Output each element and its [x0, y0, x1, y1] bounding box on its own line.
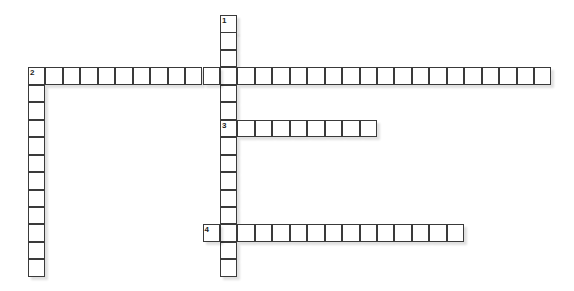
crossword-cell[interactable] — [412, 224, 429, 242]
crossword-cell[interactable] — [220, 32, 237, 50]
crossword-cell[interactable] — [377, 67, 394, 85]
clue-number: 4 — [205, 225, 209, 234]
crossword-cell[interactable] — [220, 224, 237, 242]
crossword-cell[interactable] — [429, 67, 446, 85]
crossword-cell[interactable] — [220, 102, 237, 120]
crossword-cell[interactable] — [290, 120, 307, 138]
crossword-cell[interactable]: 2 — [28, 67, 45, 85]
crossword-cell[interactable] — [272, 120, 289, 138]
crossword-cell[interactable] — [237, 120, 254, 138]
crossword-cell[interactable] — [290, 67, 307, 85]
crossword-cell[interactable] — [534, 67, 551, 85]
clue-number: 1 — [222, 16, 226, 25]
crossword-cell[interactable] — [28, 172, 45, 190]
crossword-cell[interactable] — [220, 207, 237, 225]
crossword-cell[interactable] — [28, 190, 45, 208]
crossword-cell[interactable] — [237, 67, 254, 85]
crossword-cell[interactable] — [255, 224, 272, 242]
crossword-cell[interactable] — [272, 224, 289, 242]
crossword-cell[interactable] — [360, 67, 377, 85]
crossword-cell[interactable] — [28, 155, 45, 173]
crossword-cell[interactable] — [28, 207, 45, 225]
crossword-cell[interactable] — [98, 67, 115, 85]
crossword-grid: 1324 — [0, 0, 574, 291]
clue-number: 3 — [222, 121, 226, 130]
crossword-cell[interactable] — [342, 224, 359, 242]
crossword-cell[interactable] — [28, 242, 45, 260]
crossword-cell[interactable] — [63, 67, 80, 85]
crossword-cell[interactable] — [237, 224, 254, 242]
crossword-cell[interactable] — [255, 67, 272, 85]
crossword-cell[interactable] — [28, 85, 45, 103]
crossword-cell[interactable] — [80, 67, 97, 85]
crossword-cell[interactable] — [447, 67, 464, 85]
crossword-cell[interactable] — [360, 224, 377, 242]
crossword-cell[interactable] — [377, 224, 394, 242]
crossword-cell[interactable] — [28, 137, 45, 155]
crossword-cell[interactable] — [464, 67, 481, 85]
crossword-cell[interactable] — [307, 120, 324, 138]
crossword-cell[interactable] — [168, 67, 185, 85]
crossword-cell[interactable] — [28, 224, 45, 242]
crossword-cell[interactable] — [482, 67, 499, 85]
crossword-cell[interactable] — [394, 67, 411, 85]
crossword-cell[interactable] — [412, 67, 429, 85]
crossword-cell[interactable] — [185, 67, 202, 85]
crossword-cell[interactable] — [28, 120, 45, 138]
crossword-cell[interactable] — [220, 242, 237, 260]
crossword-cell[interactable] — [360, 120, 377, 138]
crossword-cell[interactable] — [342, 67, 359, 85]
crossword-cell[interactable] — [133, 67, 150, 85]
crossword-cell[interactable] — [307, 224, 324, 242]
crossword-cell[interactable] — [394, 224, 411, 242]
crossword-cell[interactable]: 4 — [203, 224, 220, 242]
crossword-cell[interactable] — [325, 67, 342, 85]
crossword-cell[interactable] — [290, 224, 307, 242]
crossword-cell[interactable] — [28, 259, 45, 277]
crossword-cell[interactable] — [115, 67, 132, 85]
crossword-cell[interactable] — [220, 67, 237, 85]
crossword-cell[interactable] — [307, 67, 324, 85]
crossword-cell[interactable] — [28, 102, 45, 120]
crossword-cell[interactable] — [220, 137, 237, 155]
crossword-cell[interactable] — [220, 50, 237, 68]
crossword-cell[interactable] — [325, 120, 342, 138]
crossword-cell[interactable] — [220, 172, 237, 190]
crossword-cell[interactable] — [220, 259, 237, 277]
crossword-cell[interactable] — [325, 224, 342, 242]
crossword-cell[interactable] — [429, 224, 446, 242]
crossword-cell[interactable] — [220, 155, 237, 173]
crossword-cell[interactable] — [45, 67, 62, 85]
crossword-cell[interactable] — [272, 67, 289, 85]
crossword-cell[interactable]: 1 — [220, 15, 237, 33]
crossword-cell[interactable] — [342, 120, 359, 138]
crossword-cell[interactable] — [150, 67, 167, 85]
clue-number: 2 — [30, 68, 34, 77]
crossword-cell[interactable] — [499, 67, 516, 85]
crossword-cell[interactable] — [203, 67, 220, 85]
crossword-cell[interactable] — [517, 67, 534, 85]
crossword-cell[interactable] — [255, 120, 272, 138]
crossword-cell[interactable] — [220, 190, 237, 208]
crossword-cell[interactable] — [447, 224, 464, 242]
crossword-cell[interactable]: 3 — [220, 120, 237, 138]
crossword-cell[interactable] — [220, 85, 237, 103]
